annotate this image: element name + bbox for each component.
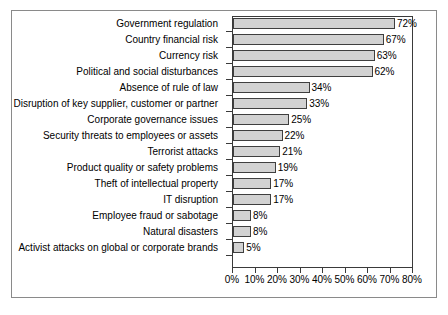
bar-value-label: 8%	[253, 208, 267, 224]
bar-value-label: 34%	[312, 80, 332, 96]
bar-rows: Government regulation72%Country financia…	[0, 16, 448, 268]
x-axis-tick-label: 80%	[402, 274, 422, 285]
x-axis: 0%10%20%30%40%50%60%70%80%	[232, 268, 413, 296]
bar-row: Product quality or safety problems19%	[0, 160, 448, 176]
bar-row: IT disruption17%	[0, 192, 448, 208]
bar-row: Security threats to employees or assets2…	[0, 128, 448, 144]
category-label: Country financial risk	[125, 32, 218, 48]
bar-row: Country financial risk67%	[0, 32, 448, 48]
bar-value-label: 63%	[377, 48, 397, 64]
x-axis-tick-label: 0%	[225, 274, 239, 285]
bar-value-label: 5%	[246, 240, 260, 256]
bar	[233, 50, 375, 61]
bar-value-label: 21%	[282, 144, 302, 160]
x-axis-tick	[322, 268, 323, 273]
category-label: Political and social disturbances	[76, 64, 218, 80]
bar	[233, 162, 276, 173]
category-label: Employee fraud or sabotage	[92, 208, 218, 224]
x-axis-tick	[390, 268, 391, 273]
bar	[233, 210, 251, 221]
category-label: Corporate governance issues	[87, 112, 218, 128]
bar-row: Natural disasters8%	[0, 224, 448, 240]
bar	[233, 242, 244, 253]
category-label: IT disruption	[163, 192, 218, 208]
category-label: Security threats to employees or assets	[43, 128, 218, 144]
x-axis-tick	[367, 268, 368, 273]
bar-value-label: 17%	[273, 176, 293, 192]
bar	[233, 114, 289, 125]
bar-row: Currency risk63%	[0, 48, 448, 64]
x-axis-tick	[412, 268, 413, 273]
category-label: Terrorist attacks	[147, 144, 218, 160]
bar-row: Political and social disturbances62%	[0, 64, 448, 80]
bar-row: Theft of intellectual property17%	[0, 176, 448, 192]
horizontal-bar-chart: Government regulation72%Country financia…	[0, 0, 448, 315]
bar	[233, 66, 373, 77]
bar-value-label: 22%	[285, 128, 305, 144]
category-label: Currency risk	[159, 48, 218, 64]
y-axis-tick	[226, 255, 232, 256]
bar	[233, 98, 307, 109]
bar	[233, 194, 271, 205]
bar-row: Disruption of key supplier, customer or …	[0, 96, 448, 112]
category-label: Theft of intellectual property	[95, 176, 218, 192]
bar	[233, 226, 251, 237]
bar-row: Activist attacks on global or corporate …	[0, 240, 448, 256]
x-axis-tick	[232, 268, 233, 273]
bar-row: Employee fraud or sabotage8%	[0, 208, 448, 224]
bar-row: Government regulation72%	[0, 16, 448, 32]
x-axis-tick-label: 20%	[267, 274, 287, 285]
bar-row: Terrorist attacks21%	[0, 144, 448, 160]
x-axis-tick	[277, 268, 278, 273]
category-label: Disruption of key supplier, customer or …	[13, 96, 218, 112]
x-axis-tick-label: 30%	[289, 274, 309, 285]
bar	[233, 130, 283, 141]
x-axis-tick	[300, 268, 301, 273]
x-axis-tick	[255, 268, 256, 273]
bar	[233, 82, 310, 93]
category-label: Natural disasters	[143, 224, 218, 240]
bar	[233, 146, 280, 157]
x-axis-tick-label: 10%	[244, 274, 264, 285]
bar	[233, 18, 395, 29]
bar-value-label: 19%	[278, 160, 298, 176]
x-axis-tick-label: 70%	[379, 274, 399, 285]
category-label: Product quality or safety problems	[67, 160, 218, 176]
bar-value-label: 62%	[375, 64, 395, 80]
bar-value-label: 8%	[253, 224, 267, 240]
x-axis-tick-label: 60%	[357, 274, 377, 285]
x-axis-tick-label: 40%	[312, 274, 332, 285]
bar-value-label: 33%	[309, 96, 329, 112]
x-axis-tick-label: 50%	[334, 274, 354, 285]
x-axis-tick	[345, 268, 346, 273]
bar	[233, 34, 384, 45]
bar	[233, 178, 271, 189]
bar-row: Absence of rule of law34%	[0, 80, 448, 96]
bar-value-label: 67%	[386, 32, 406, 48]
bar-value-label: 25%	[291, 112, 311, 128]
bar-value-label: 17%	[273, 192, 293, 208]
category-label: Activist attacks on global or corporate …	[18, 240, 218, 256]
bar-value-label: 72%	[397, 16, 417, 32]
bar-row: Corporate governance issues25%	[0, 112, 448, 128]
category-label: Government regulation	[116, 16, 218, 32]
category-label: Absence of rule of law	[120, 80, 218, 96]
